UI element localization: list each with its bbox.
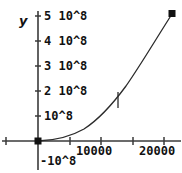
y-tick-label-1e8: 10^8: [44, 110, 73, 122]
endpoint-marker: [169, 10, 176, 17]
y-tick-label-2e8: 2 10^8: [44, 85, 87, 97]
y-tick-label-5e8: 5 10^8: [44, 10, 87, 22]
y-tick-label-neg1e8: -10^8: [40, 155, 76, 167]
chart-plot-area: y 5 10^8 4 10^8 3 10^8 2 10^8 10^8 -10^8…: [0, 0, 182, 173]
origin-point-marker: [35, 138, 42, 145]
x-tick-label-10000: 10000: [76, 145, 112, 157]
y-tick-label-4e8: 4 10^8: [44, 35, 87, 47]
y-axis-label: y: [19, 13, 27, 28]
y-tick-label-3e8: 3 10^8: [44, 60, 87, 72]
x-tick-label-20000: 20000: [139, 145, 175, 157]
